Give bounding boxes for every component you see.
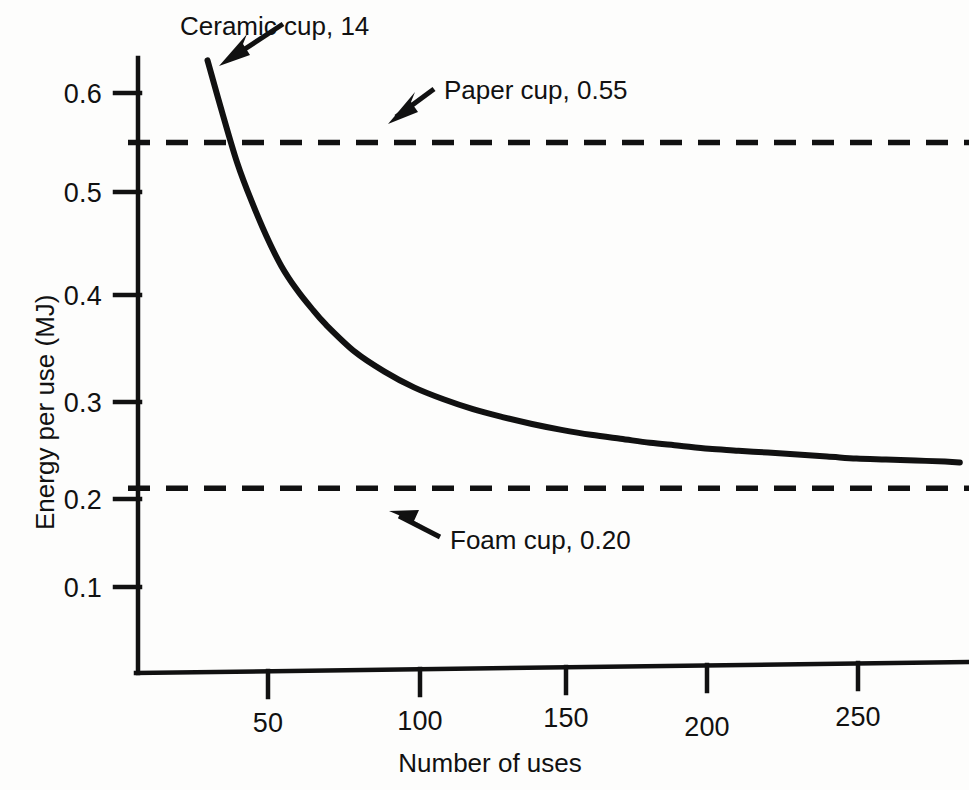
ceramic-cup-curve — [208, 60, 960, 462]
x-axis-line — [136, 662, 969, 673]
paper-cup-arrow-icon — [388, 89, 434, 124]
annotation-paper-cup: Paper cup, 0.55 — [444, 75, 628, 106]
x-tick-label-150: 150 — [529, 703, 603, 734]
y-tick-label-0.6: 0.6 — [44, 79, 102, 110]
x-tick-label-50: 50 — [238, 708, 298, 739]
chart-figure: 0.6 0.5 0.4 0.3 0.2 0.1 50 100 150 200 2… — [0, 0, 969, 790]
y-tick-label-0.5: 0.5 — [44, 178, 102, 209]
y-axis-title: Energy per use (MJ) — [30, 294, 61, 530]
y-tick-label-0.1: 0.1 — [44, 573, 102, 604]
annotation-foam-cup: Foam cup, 0.20 — [450, 525, 631, 556]
x-tick-label-250: 250 — [821, 702, 895, 733]
chart-plot-area — [0, 0, 969, 790]
x-axis-title: Number of uses — [380, 748, 600, 779]
foam-cup-arrow-icon — [389, 510, 440, 537]
x-tick-label-100: 100 — [383, 706, 457, 737]
x-tick-label-200: 200 — [670, 712, 744, 743]
annotation-ceramic-cup: Ceramic cup, 14 — [180, 11, 369, 42]
